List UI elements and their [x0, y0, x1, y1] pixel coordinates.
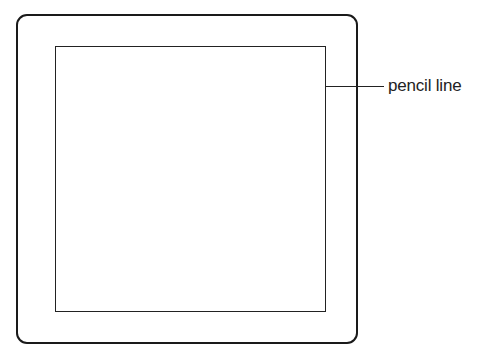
- leader-line: [325, 86, 384, 87]
- inner-square-pencil-line: [55, 46, 326, 312]
- annotation-label: pencil line: [388, 76, 461, 96]
